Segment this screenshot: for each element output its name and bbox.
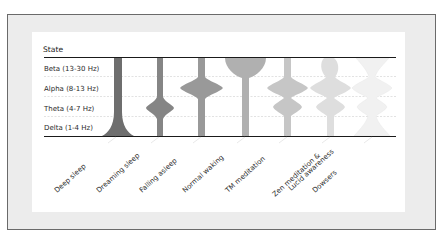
y-axis-title: State bbox=[43, 45, 63, 54]
row-label-alpha: Alpha (8-13 Hz) bbox=[44, 85, 99, 93]
axis-ticks bbox=[108, 137, 372, 143]
shape-deep-sleep bbox=[102, 58, 134, 136]
shape-zen-meditation bbox=[310, 58, 351, 136]
column-label-deep-sleep: Deep sleep bbox=[53, 162, 88, 195]
column-label-falling-asleep: Falling asleep bbox=[138, 156, 179, 194]
column-label-normal-waking: Normal waking bbox=[181, 153, 225, 194]
column-label-zen-line2: Lucid awareness bbox=[287, 147, 336, 192]
row-label-delta: Delta (1-4 Hz) bbox=[44, 124, 93, 132]
gridlines bbox=[44, 77, 396, 117]
shape-falling-asleep bbox=[180, 58, 223, 136]
shape-tm-meditation bbox=[267, 58, 308, 136]
shape-normal-waking bbox=[225, 58, 266, 136]
row-label-beta: Beta (13-30 Hz) bbox=[44, 65, 100, 73]
column-label-tm-meditation: TM meditation bbox=[223, 155, 267, 195]
shape-dowsers bbox=[352, 58, 392, 136]
shape-dreaming-sleep bbox=[146, 58, 174, 136]
column-label-dowsers: Dowsers bbox=[311, 168, 339, 194]
brainwave-state-diagram: State Beta (13-30 Hz) Alpha (8-13 Hz) Th… bbox=[0, 0, 445, 242]
column-label-dreaming-sleep: Dreaming sleep bbox=[95, 151, 142, 194]
row-label-theta: Theta (4-7 Hz) bbox=[43, 105, 95, 113]
